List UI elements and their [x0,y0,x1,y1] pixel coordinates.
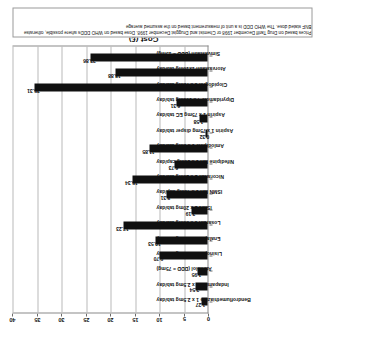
category-label-text: Enalapril 1 x 10mg tab/day [156,235,268,241]
bar-value-label: 11.85 [142,148,154,154]
footnote-text: Prices based on Drug Tariff December 199… [15,8,311,34]
category-label: Atenolol (DDD = 75mg) [209,264,329,279]
chart-canvas: 0510152025303540 1.272.541.959.7010.5317… [0,0,391,343]
category-label-text: Aspirin 1 x 75mg EC tab/day [156,111,268,117]
y-axis-tick-label: 15 [132,317,138,323]
y-axis-tick-label: 25 [83,317,89,323]
bar-value-label: 8.31 [160,194,170,200]
category-label: Indapamide 1 x 2.5mg tab/day [209,279,329,294]
category-label-text: Aspirin 1 x 75mg disper tab/day [156,127,268,133]
bar-value-label: 6.31 [170,103,180,109]
y-axis-tick-label: 10 [156,317,162,323]
bar-value-label: 15.34 [125,179,137,185]
category-label-text: Simvastatin (DDD = 15mg) [156,50,268,56]
category-label: Enalapril 1 x 10mg tab/day [209,233,329,248]
category-label-text: ISMN 2 x 20mg tab/day [156,204,268,210]
category-label: Nifedipine MR 1 x 30mg cap/day [209,156,329,171]
x-axis-category-labels: Bendroflumethiazide 1 x 2.5mg tab/dayInd… [209,45,329,313]
y-axis: 0510152025303540 [12,313,208,343]
y-axis-tick-label: 35 [34,317,40,323]
category-label-text: ISMN MR 1 x 40mg cap/day [156,188,268,194]
category-label-text: Dipyridamole 4 x 100mg tab/day [156,96,268,102]
category-label: Bendroflumethiazide 1 x 2.5mg tab/day [209,295,329,310]
category-label: Nicorandil 2 x 20mg tab/day [209,171,329,186]
category-label-text: Clopidogrel 1 x 75mg tab/day [156,81,268,87]
category-label: Dipyridamole 4 x 100mg tab/day [209,94,329,109]
bar-value-label: 18.88 [107,72,119,78]
category-label: Amlodipine 1 x 5mg tab/day [209,141,329,156]
bar-value-label: 1.58 [193,118,203,124]
category-label-text: Atenolol (DDD = 75mg) [156,265,268,271]
category-label: Aspirin 1 x 75mg disper tab/day [209,125,329,140]
category-label-text: Amlodipine 1 x 5mg tab/day [156,142,268,148]
category-label-text: Bendroflumethiazide 1 x 2.5mg tab/day [156,296,268,302]
bar-value-label: 1.95 [192,271,202,277]
y-axis-tick-label: 40 [9,317,15,323]
category-label-text: Losartan 1 x 50mg tab/day [156,219,268,225]
category-label: Atorvastatin 1x10mg tab/day [209,64,329,79]
bar-value-label: 23.86 [83,57,95,63]
category-label: ISMN MR 1 x 40mg cap/day [209,187,329,202]
category-label: Clopidogrel 1 x 75mg tab/day [209,79,329,94]
y-axis-tick-label: 30 [58,317,64,323]
bar-value-label: 17.23 [115,225,127,231]
category-label: ISMN 2 x 20mg tab/day [209,202,329,217]
chart-figure: 0510152025303540 1.272.541.959.7010.5317… [0,0,391,343]
bar-value-label: 6.73 [168,164,178,170]
category-label: Simvastatin (DDD = 15mg) [209,48,329,63]
category-label-text: Nicorandil 2 x 20mg tab/day [156,173,268,179]
y-axis-tick-label: 0 [205,317,211,320]
category-label: Aspirin 1 x 75mg EC tab/day [209,110,329,125]
category-label: Losartan 1 x 50mg tab/day [209,218,329,233]
y-axis-tick-label: 20 [107,317,113,323]
category-label-text: Lisinopril 1 x 10mg tab/day [156,250,268,256]
y-axis-tick-label: 5 [181,317,187,320]
bar-value-label: 35.31 [27,87,39,93]
category-label-text: Atorvastatin 1x10mg tab/day [156,65,268,71]
bar-value-label: 0.32 [200,133,210,139]
category-label: Lisinopril 1 x 10mg tab/day [209,248,329,263]
footnote-box: Prices based on Drug Tariff December 199… [12,7,312,37]
category-label-text: Nifedipine MR 1 x 30mg cap/day [156,158,268,164]
category-label-text: Indapamide 1 x 2.5mg tab/day [156,281,268,287]
